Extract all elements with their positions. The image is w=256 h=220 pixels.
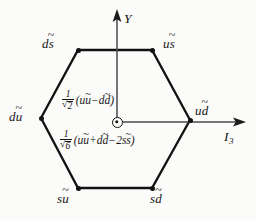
vertex-dot-top-left	[76, 48, 81, 53]
tilde-accent-icon: ~	[155, 185, 162, 197]
vertex-label-top-right: u~s	[163, 37, 175, 50]
origin-circled-dot-icon	[112, 117, 123, 128]
vertex-label-bottom-left: s~u	[57, 192, 69, 205]
diagram-geometry	[0, 0, 256, 220]
term2-antiquark: ~d	[103, 135, 109, 147]
operator-2: −	[108, 134, 116, 146]
center-state-upper: 1 2 (u~u−d~d)	[62, 90, 114, 112]
vertex-label-left-antiquark: ~u	[16, 110, 23, 123]
tilde-accent-icon: ~	[169, 30, 176, 42]
vertex-dot-left	[39, 116, 44, 121]
close-paren: )	[110, 94, 114, 106]
vertex-dot-right	[188, 118, 193, 123]
vertex-label-top-left-antiquark: ~s	[49, 37, 54, 50]
coefficient-fraction-lower: 1 6	[60, 130, 72, 152]
center-state-lower: 1 6 (u~u+d~d−2s~s)	[60, 130, 135, 152]
square-root-icon: 2	[63, 101, 73, 112]
tilde-accent-icon: ~	[62, 185, 69, 197]
i3-axis-label-symbol: I	[224, 129, 229, 144]
tilde-accent-icon: ~	[85, 89, 91, 100]
i3-axis-label-subscript: 3	[229, 136, 234, 146]
tilde-accent-icon: ~	[103, 129, 109, 140]
tilde-accent-icon: ~	[105, 89, 111, 100]
center-state-lower-expression: (u~u+d~d−2s~s)	[74, 135, 135, 147]
tilde-accent-icon: ~	[126, 129, 132, 140]
fraction-numerator: 1	[62, 130, 71, 140]
coefficient-fraction-upper: 1 2	[62, 90, 74, 112]
vertex-dot-bottom-left	[76, 186, 81, 191]
vertex-label-top-right-antiquark: ~s	[170, 37, 175, 50]
vertex-label-top-left: d~s	[42, 37, 54, 50]
square-root-icon: 6	[61, 141, 71, 152]
term2-antiquark: ~d	[105, 95, 111, 107]
i3-axis	[112, 118, 246, 127]
vertex-label-bottom-right: s~d	[150, 192, 162, 205]
i3-axis-label: I3	[224, 130, 234, 146]
fraction-denominator: 2	[62, 99, 74, 111]
vertex-label-left: d~u	[9, 110, 22, 123]
vertex-label-bottom-left-antiquark: ~u	[62, 192, 69, 205]
operator-1: −	[91, 94, 99, 106]
meson-weight-diagram: d~s u~s d~u u~d s~u s~d Y I3 1 2 (u~u−d~…	[0, 0, 256, 220]
tilde-accent-icon: ~	[202, 97, 209, 109]
y-axis-label: Y	[124, 12, 132, 26]
operator-1: +	[89, 134, 97, 146]
vertex-dot-bottom-right	[150, 186, 155, 191]
vertex-label-right-antiquark: ~d	[202, 104, 209, 117]
vertex-label-bottom-right-antiquark: ~d	[155, 192, 162, 205]
vertex-dot-top-right	[150, 48, 155, 53]
term1-antiquark: ~u	[85, 95, 91, 107]
tilde-accent-icon: ~	[83, 129, 89, 140]
term3-antiquark: ~s	[126, 135, 130, 147]
center-state-upper-expression: (u~u−d~d)	[76, 95, 114, 107]
term1-antiquark: ~u	[83, 135, 89, 147]
vertex-label-right: u~d	[195, 104, 208, 117]
fraction-denominator: 6	[60, 139, 72, 151]
fraction-numerator: 1	[64, 90, 73, 100]
tilde-accent-icon: ~	[16, 103, 23, 115]
tilde-accent-icon: ~	[48, 30, 55, 42]
